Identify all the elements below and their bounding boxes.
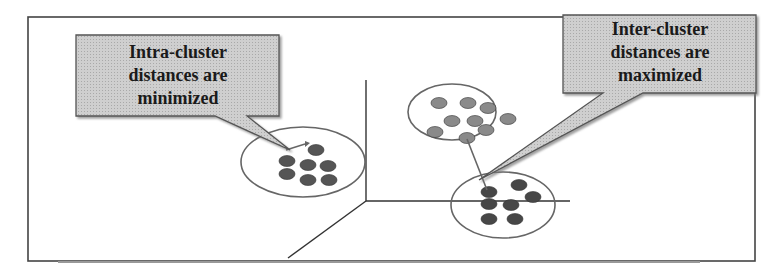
callout-inter-line-3: maximized — [565, 64, 755, 87]
callout-intra-line-2: distances are — [78, 64, 278, 87]
data-point — [460, 98, 476, 109]
data-point — [321, 175, 337, 186]
data-point — [300, 175, 316, 186]
callout-intra-line-1: Intra-cluster — [78, 41, 278, 64]
data-point — [503, 200, 519, 211]
callout-inter-line-1: Inter-cluster — [565, 18, 755, 41]
data-point — [481, 199, 497, 210]
data-point — [431, 98, 447, 109]
callout-intra-line-3: minimized — [78, 87, 278, 110]
callout-inter-line-2: distances are — [565, 41, 755, 64]
callout-intra-label: Intra-cluster distances are minimized — [78, 41, 278, 110]
data-point — [444, 116, 460, 127]
data-point — [525, 192, 541, 203]
data-point — [308, 145, 324, 156]
data-point — [427, 127, 443, 138]
data-point — [480, 103, 496, 114]
data-point — [467, 116, 483, 127]
data-point — [279, 169, 295, 180]
data-point — [507, 214, 523, 225]
data-point — [300, 160, 316, 171]
callout-inter-label: Inter-cluster distances are maximized — [565, 18, 755, 87]
data-point — [511, 180, 527, 191]
data-point — [478, 125, 494, 136]
data-point — [279, 156, 295, 167]
data-point — [481, 214, 497, 225]
data-point — [459, 133, 475, 144]
data-point — [320, 161, 336, 172]
data-point — [500, 114, 516, 125]
data-point — [481, 187, 497, 198]
